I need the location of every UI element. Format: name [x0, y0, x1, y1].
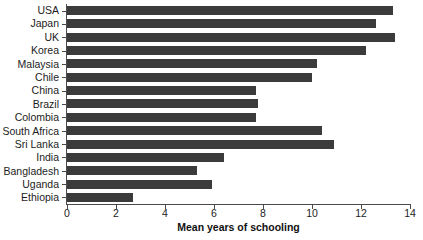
y-axis-tick — [62, 197, 66, 198]
y-axis-tick — [62, 157, 66, 158]
x-axis-tick-label: 8 — [260, 207, 266, 219]
category-label: India — [0, 151, 63, 164]
category-label: Sri Lanka — [0, 138, 63, 151]
category-axis-labels: USAJapanUKKoreaMalaysiaChileChinaBrazilC… — [0, 4, 63, 204]
bar-row — [67, 84, 410, 97]
bar — [67, 59, 317, 68]
bar-row — [67, 98, 410, 111]
bar-row — [67, 138, 410, 151]
category-label: Uganda — [0, 178, 63, 191]
x-axis-tick-label: 4 — [162, 207, 168, 219]
y-axis-tick — [62, 77, 66, 78]
bar-row — [67, 191, 410, 204]
bar-row — [67, 178, 410, 191]
bar — [67, 33, 395, 42]
mean-years-of-schooling-bar-chart: USAJapanUKKoreaMalaysiaChileChinaBrazilC… — [0, 0, 423, 240]
y-axis-tick — [62, 51, 66, 52]
bar-row — [67, 165, 410, 178]
bar — [67, 19, 376, 28]
bar-row — [67, 71, 410, 84]
x-axis-tick-label: 2 — [113, 207, 119, 219]
bar-row — [67, 111, 410, 124]
bar-row — [67, 125, 410, 138]
x-axis-tick-label: 10 — [306, 207, 318, 219]
category-label: Japan — [0, 17, 63, 30]
category-label: Colombia — [0, 111, 63, 124]
bar — [67, 140, 334, 149]
x-axis-line — [66, 204, 411, 205]
y-axis-tick — [62, 11, 66, 12]
x-axis-tick-label: 12 — [355, 207, 367, 219]
y-axis-tick — [62, 104, 66, 105]
bar-row — [67, 4, 410, 17]
bar — [67, 180, 212, 189]
y-axis-tick — [62, 184, 66, 185]
y-axis-tick — [62, 117, 66, 118]
category-label: Malaysia — [0, 58, 63, 71]
category-label: Brazil — [0, 98, 63, 111]
category-label: Bangladesh — [0, 165, 63, 178]
y-axis-tick — [62, 131, 66, 132]
y-axis-tick — [62, 144, 66, 145]
x-axis-title: Mean years of schooling — [67, 221, 410, 233]
y-axis-tick — [62, 64, 66, 65]
x-axis-tick-label: 6 — [211, 207, 217, 219]
bar — [67, 153, 224, 162]
bar — [67, 126, 322, 135]
bar — [67, 193, 133, 202]
category-label: Chile — [0, 71, 63, 84]
bar-row — [67, 151, 410, 164]
category-label: Ethiopia — [0, 191, 63, 204]
bar-row — [67, 31, 410, 44]
bar — [67, 99, 258, 108]
category-label: Korea — [0, 44, 63, 57]
bar — [67, 46, 366, 55]
y-axis-tick — [62, 37, 66, 38]
plot-area — [67, 4, 410, 204]
bar — [67, 113, 256, 122]
bar — [67, 6, 393, 15]
bar — [67, 166, 197, 175]
y-axis-tick — [62, 24, 66, 25]
category-label: UK — [0, 31, 63, 44]
x-axis-tick-label: 14 — [404, 207, 416, 219]
x-axis-tick-label: 0 — [64, 207, 70, 219]
bar-row — [67, 44, 410, 57]
bar-rows — [67, 4, 410, 204]
bar-row — [67, 58, 410, 71]
category-label: USA — [0, 4, 63, 17]
bar — [67, 86, 256, 95]
category-label: China — [0, 84, 63, 97]
y-axis-tick — [62, 91, 66, 92]
bar-row — [67, 17, 410, 30]
category-label: South Africa — [0, 125, 63, 138]
y-axis-tick — [62, 171, 66, 172]
bar — [67, 73, 312, 82]
